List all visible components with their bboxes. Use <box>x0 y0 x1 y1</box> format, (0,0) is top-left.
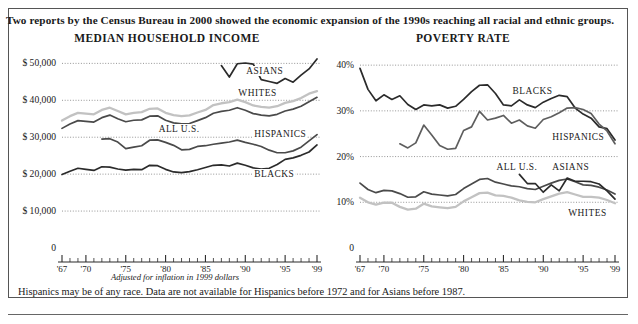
series-label-blacks: BLACKS <box>511 86 553 96</box>
y-axis-label: 10% <box>320 196 354 207</box>
headline: Two reports by the Census Bureau in 2000… <box>0 14 620 26</box>
x-axis-label: '95 <box>569 264 597 274</box>
series-label-blacks: BLACKS <box>253 169 295 179</box>
y-axis-label: 40% <box>320 59 354 70</box>
y-axis-label: $ 50,000 <box>6 57 56 68</box>
y-axis-label: $ 10,000 <box>6 205 56 216</box>
bottom-rule <box>8 314 628 315</box>
x-axis-label: '80 <box>450 264 478 274</box>
poverty-rate-chart: 40%30%20%10%0'67'70'75'80'85'90'95'99BLA… <box>360 56 615 278</box>
series-line-whites <box>62 91 317 121</box>
footnote: Hispanics may be of any race. Data are n… <box>18 286 622 297</box>
series-label-hispanics: HISPANICS <box>551 132 605 142</box>
series-label-all-u-s: ALL U.S. <box>495 162 538 172</box>
y-axis-label: $ 20,000 <box>6 168 56 179</box>
right-chart-title: POVERTY RATE <box>318 32 608 44</box>
y-axis-label: 20% <box>320 151 354 162</box>
series-label-whites: WHITES <box>567 208 607 218</box>
y-axis-label: 0 <box>6 242 56 253</box>
series-label-whites: WHITES <box>237 88 277 98</box>
series-label-asians: ASIANS <box>551 162 590 172</box>
series-label-hispanics: HISPANICS <box>253 129 307 139</box>
median-household-income-chart: $ 50,000$ 40,000$ 30,000$ 20,000$ 10,000… <box>62 56 317 278</box>
y-axis-label: 0 <box>320 242 354 253</box>
x-axis-label: '85 <box>489 264 517 274</box>
x-axis-label: '99 <box>601 264 629 274</box>
y-axis-label: $ 30,000 <box>6 131 56 142</box>
series-line-asians <box>519 174 615 199</box>
series-label-all-u-s: ALL U.S. <box>158 124 201 134</box>
y-axis-label: $ 40,000 <box>6 94 56 105</box>
x-axis-label: '90 <box>529 264 557 274</box>
series-label-asians: ASIANS <box>245 66 284 76</box>
inflation-note: Adjusted for inflation in 1999 dollars <box>30 272 320 282</box>
series-line-blacks <box>360 68 615 140</box>
y-axis-label: 30% <box>320 105 354 116</box>
left-chart-title: MEDIAN HOUSEHOLD INCOME <box>22 32 312 44</box>
x-axis-label: '75 <box>410 264 438 274</box>
income-plot-svg <box>62 56 323 278</box>
x-axis-label: '70 <box>370 264 398 274</box>
